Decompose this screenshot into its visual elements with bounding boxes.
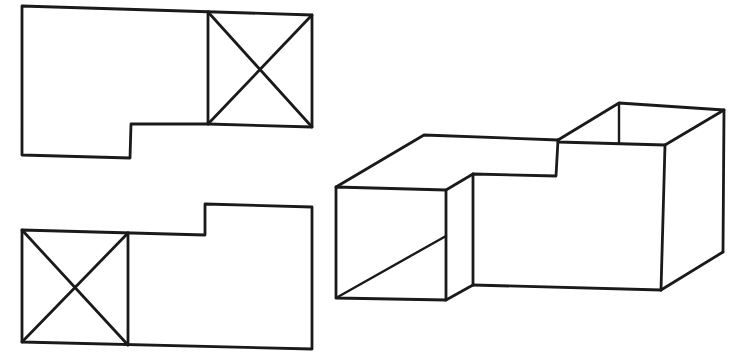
iso-step-edge [446, 140, 558, 190]
drawing-canvas [0, 0, 741, 364]
iso-tall-block-top [558, 103, 724, 145]
bottom-view [22, 204, 312, 349]
top-view [22, 6, 312, 158]
iso-left-top-face [336, 135, 558, 187]
iso-bottom-right-edge [661, 252, 723, 290]
isometric-view [336, 103, 724, 300]
top-view-cross-line-2 [208, 15, 312, 124]
iso-left-face-diagonal [336, 236, 446, 298]
iso-back-right-vertical [723, 110, 724, 252]
iso-front-right-vertical [661, 145, 665, 290]
iso-bottom-front-edge [473, 285, 661, 290]
iso-left-front-face [336, 187, 446, 300]
iso-inner-bottom-edge [446, 285, 473, 300]
bottom-view-cross-line-2 [22, 233, 128, 342]
top-view-outline [22, 6, 312, 158]
